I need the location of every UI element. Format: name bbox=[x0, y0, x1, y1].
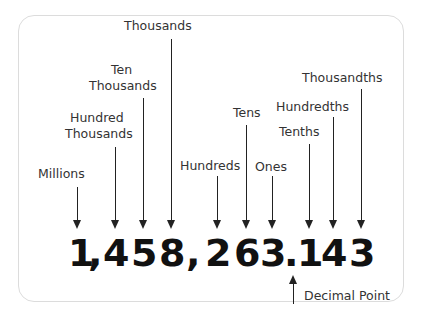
digit-thousands: 8 bbox=[159, 233, 185, 273]
label-hundreds: Hundreds bbox=[180, 158, 240, 174]
label-ones: Ones bbox=[255, 159, 287, 175]
digit-hundreds: 2 bbox=[205, 233, 231, 273]
digit-ones: 3 bbox=[260, 233, 286, 273]
label-hundred-thousands-line2: Thousands bbox=[65, 126, 133, 142]
comma-1: , bbox=[88, 233, 102, 273]
digit-thousandths: 3 bbox=[349, 233, 375, 273]
digit-tens: 6 bbox=[234, 233, 260, 273]
label-ten-thousands-line1: Ten bbox=[111, 62, 131, 78]
label-hundredths: Hundredths bbox=[276, 99, 349, 115]
digit-tenths: 1 bbox=[297, 233, 323, 273]
label-tenths: Tenths bbox=[279, 124, 319, 140]
label-decimal-point: Decimal Point bbox=[304, 288, 390, 304]
digit-hundred-thousands: 4 bbox=[103, 233, 129, 273]
digit-hundredths: 4 bbox=[321, 233, 347, 273]
label-hundred-thousands-line1: Hundred bbox=[70, 110, 124, 126]
comma-2: , bbox=[186, 233, 200, 273]
label-ten-thousands-line2: Thousands bbox=[89, 78, 157, 94]
label-millions: Millions bbox=[38, 166, 85, 182]
label-tens: Tens bbox=[233, 105, 261, 121]
label-thousands: Thousands bbox=[124, 18, 192, 34]
label-thousandths: Thousandths bbox=[302, 70, 383, 86]
digit-ten-thousands: 5 bbox=[131, 233, 157, 273]
